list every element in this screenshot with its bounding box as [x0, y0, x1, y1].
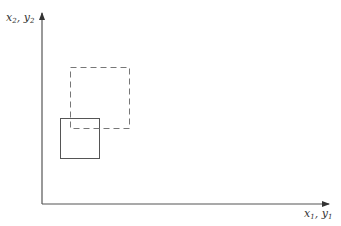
y-axis-label: x2, y2	[6, 11, 35, 25]
solid-rectangle	[61, 119, 100, 159]
x-axis-label: x1, y1	[304, 207, 332, 221]
diagram-canvas: x2, y2 x1, y1	[0, 0, 341, 226]
